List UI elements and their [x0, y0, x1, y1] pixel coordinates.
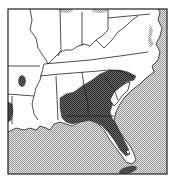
range-map: Species range map Southeastern United St… [0, 0, 176, 180]
map-canvas [0, 0, 176, 180]
range-arkansas [19, 76, 26, 87]
lake-okeechobee [127, 151, 129, 153]
lake-erie [92, 7, 108, 13]
lake-michigan [59, 7, 73, 13]
